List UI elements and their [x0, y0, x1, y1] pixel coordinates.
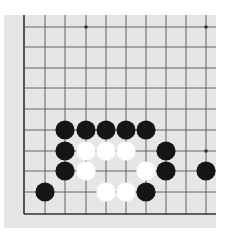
star-point-icon — [204, 149, 208, 153]
black-stone — [55, 141, 74, 160]
black-stone — [116, 120, 135, 139]
black-stone — [55, 161, 74, 180]
white-stone — [76, 141, 95, 160]
black-stone — [55, 120, 74, 139]
white-stone — [116, 182, 135, 201]
white-stone — [136, 161, 155, 180]
black-stone — [156, 161, 175, 180]
star-point-icon — [204, 25, 208, 29]
go-board — [0, 0, 225, 237]
black-stone — [35, 182, 54, 201]
black-stone — [96, 120, 115, 139]
board-grid — [24, 15, 216, 214]
black-stone — [76, 120, 95, 139]
white-stone — [76, 161, 95, 180]
black-stone — [136, 120, 155, 139]
white-stone — [96, 141, 115, 160]
star-point-icon — [84, 25, 88, 29]
black-stone — [196, 161, 215, 180]
black-stone — [156, 141, 175, 160]
black-stone — [136, 182, 155, 201]
white-stone — [116, 141, 135, 160]
white-stone — [96, 182, 115, 201]
stones-layer — [35, 120, 215, 201]
